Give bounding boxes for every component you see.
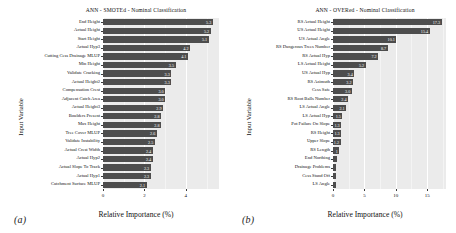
x-tick-label: 0 [102, 193, 105, 198]
bar-row: 3.2 [333, 79, 446, 85]
panel-tag-b: (b) [242, 214, 254, 225]
y-tick-label: US Actual Angle [299, 37, 330, 42]
bar-row: 3.3 [103, 70, 219, 76]
bar-value-label: 4.2 [183, 45, 188, 50]
chart-title-a: ANN - SMOTEd - Nominal Classification [0, 7, 228, 13]
bar-row: 5.2 [333, 62, 446, 68]
bar-value-label: 4.1 [181, 54, 186, 59]
figure-container: ANN - SMOTEd - Nominal Classification In… [0, 0, 456, 233]
bar-row [333, 164, 446, 170]
bar: 3.0 [333, 88, 352, 94]
y-tick-mark [331, 185, 333, 186]
bar: 3.0 [103, 88, 165, 94]
bar-value-label: 3.5 [169, 63, 174, 68]
bar-row: 4.1 [103, 53, 219, 59]
x-tick-label: 2 [143, 193, 146, 198]
bar-value-label: 2.4 [146, 148, 151, 153]
y-tick-mark [331, 125, 333, 126]
y-tick-label: Tree Cover MLUP [65, 131, 100, 136]
plot-area-a: 5.35.25.14.24.13.53.33.33.03.02.92.82.82… [103, 18, 219, 189]
bar-row: 2.3 [103, 173, 219, 179]
x-tick-mark [186, 189, 187, 191]
bar-row: 3.0 [333, 88, 446, 94]
bar-value-label: 3.4 [348, 71, 353, 76]
bar: 1 [333, 147, 339, 153]
y-tick-label: End Northing [305, 156, 330, 161]
y-tick-label: RS Actual Height [298, 20, 330, 25]
bar: 3.4 [333, 70, 354, 76]
bar-value-label: 2.3 [144, 174, 149, 179]
bar-value-label: 2.9 [156, 105, 161, 110]
bar-value-label: 17.3 [433, 20, 440, 25]
bar-row: 2.1 [333, 105, 446, 111]
y-tick-label: RS Actual Hyp [302, 54, 330, 59]
bar: 2.4 [333, 96, 348, 102]
y-tick-mark [331, 22, 333, 23]
y-tick-mark [331, 31, 333, 32]
bar: 2.3 [103, 164, 151, 170]
bar-row: 2.3 [103, 164, 219, 170]
y-tick-mark [101, 56, 103, 57]
bar: 1.2 [333, 139, 341, 145]
bar-row: 3.5 [103, 62, 219, 68]
bar-value-label: 1.3 [334, 131, 339, 136]
bar-row [333, 173, 446, 179]
bar-row: 2.1 [103, 182, 219, 188]
y-tick-label: US Actual Height [297, 28, 330, 33]
y-tick-mark [101, 159, 103, 160]
bar-row: 1.2 [333, 139, 446, 145]
bar-row: 5.2 [103, 28, 219, 34]
bar: 3.3 [103, 79, 171, 85]
y-tick-mark [331, 116, 333, 117]
y-tick-label: RS Dangerous Trees Number [276, 45, 330, 50]
bar: 4.1 [103, 53, 188, 59]
bar-value-label: 10.1 [388, 37, 395, 42]
y-tick-label: Compensation Crest [63, 88, 100, 93]
bar-row: 1 [333, 147, 446, 153]
bar: 5.2 [103, 28, 211, 34]
x-tick-label: 0 [332, 193, 335, 198]
bar [333, 173, 336, 179]
y-tick-label: Start Height [78, 37, 100, 42]
y-tick-label: Min Height [79, 62, 100, 67]
y-tick-label: Actual Slope To Track [59, 165, 100, 170]
bar-row: 3.3 [103, 79, 219, 85]
bar-row: 1.5 [333, 113, 446, 119]
y-tick-label: LS Actual Height [298, 62, 330, 67]
x-tick-mark [333, 189, 334, 191]
y-tick-mark [331, 48, 333, 49]
bar-row: 3.0 [103, 96, 219, 102]
y-tick-mark [101, 133, 103, 134]
x-tick-mark [427, 189, 428, 191]
bar: 4.2 [103, 45, 190, 51]
bar-value-label: 1.5 [336, 114, 341, 119]
bar-row: 1.3 [333, 130, 446, 136]
bar-value-label: 3.0 [345, 88, 350, 93]
bar-value-label: 7.2 [371, 54, 376, 59]
y-tick-label: Actual Hyp1 [76, 174, 100, 179]
bar-row: 8.7 [333, 45, 446, 51]
bar [333, 164, 336, 170]
bar-row: 2.8 [103, 113, 219, 119]
bar-value-label: 5.2 [359, 63, 364, 68]
x-tick-label: 10 [393, 193, 398, 198]
y-tick-mark [331, 39, 333, 40]
bar-row: 2.4 [333, 96, 446, 102]
y-tick-label: Actual Height2 [72, 80, 100, 85]
bar: 2.6 [103, 130, 157, 136]
bar-row: 3.0 [103, 88, 219, 94]
bar-value-label: 3.3 [165, 71, 170, 76]
y-tick-mark [101, 116, 103, 117]
y-tick-mark [331, 159, 333, 160]
x-tick-mark [103, 189, 104, 191]
panel-tag-a: (a) [14, 214, 26, 225]
bar-row: 7.2 [333, 53, 446, 59]
chart-panel-b: ANN - OVERed - Nominal Classification In… [228, 0, 456, 233]
bar-value-label: 2.6 [150, 131, 155, 136]
bar-value-label: 1.3 [334, 122, 339, 127]
bar-value-label: 5.1 [202, 37, 207, 42]
bar-value-label: 15.4 [421, 28, 428, 33]
y-tick-mark [331, 99, 333, 100]
bar: 3.0 [103, 96, 165, 102]
y-tick-mark [101, 151, 103, 152]
